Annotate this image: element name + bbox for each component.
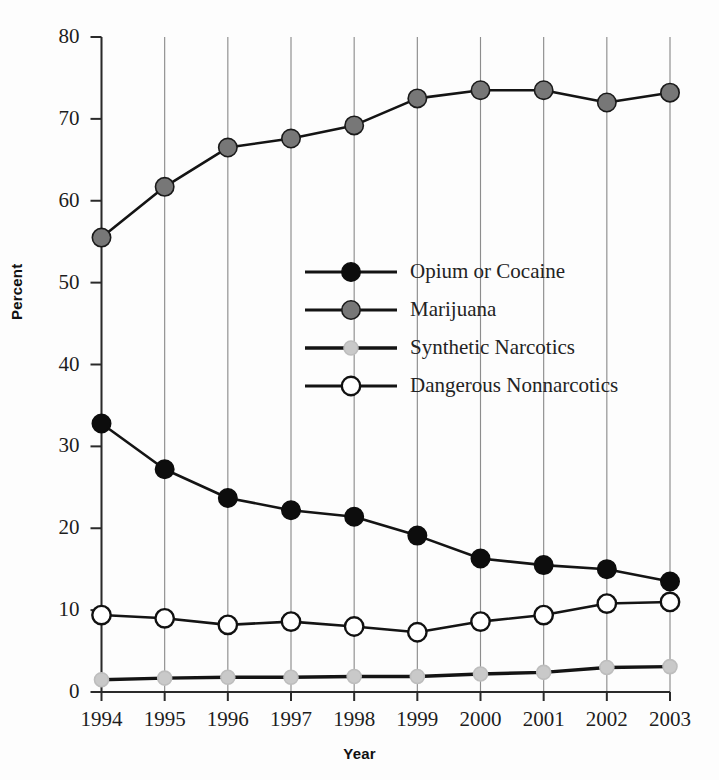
y-tick-label-60: 60: [34, 190, 80, 211]
data-point-1-1996: [219, 138, 237, 156]
data-point-1-2000: [471, 81, 489, 99]
data-point-1-1995: [155, 178, 173, 196]
x-tick-label-1995: 1995: [130, 709, 200, 730]
x-tick-label-1997: 1997: [256, 709, 326, 730]
x-tick-label-1999: 1999: [382, 709, 452, 730]
data-point-3-1999: [408, 623, 426, 641]
data-point-3-2000: [471, 612, 489, 630]
series-line-2: [102, 667, 671, 680]
chart-figure: 01020304050607080 1994199519961997199819…: [0, 0, 719, 780]
data-point-2-2002: [600, 660, 614, 674]
y-tick-label-80: 80: [34, 26, 80, 47]
data-point-2-1995: [158, 671, 172, 685]
data-point-0-2000: [471, 549, 489, 567]
data-point-0-1995: [155, 460, 173, 478]
data-point-1-1999: [408, 89, 426, 107]
x-tick-label-2001: 2001: [509, 709, 579, 730]
data-point-1-2003: [661, 83, 679, 101]
y-tick-label-0: 0: [34, 681, 80, 702]
data-point-1-2001: [534, 81, 552, 99]
y-tick-label-50: 50: [34, 272, 80, 293]
y-tick-label-20: 20: [34, 517, 80, 538]
data-point-1-1994: [92, 228, 110, 246]
y-tick-label-10: 10: [34, 599, 80, 620]
series-3: [92, 593, 679, 642]
series-line-1: [102, 90, 671, 237]
series-1: [92, 81, 679, 247]
data-point-0-1994: [92, 414, 110, 432]
x-tick-label-1994: 1994: [67, 709, 137, 730]
series-line-3: [102, 602, 671, 632]
x-tick-label-1996: 1996: [193, 709, 263, 730]
legend-marker-2: [344, 341, 358, 355]
data-point-3-1998: [345, 617, 363, 635]
data-point-1-2002: [598, 93, 616, 111]
y-axis-title: Percent: [8, 264, 25, 320]
data-point-0-1998: [345, 508, 363, 526]
data-point-3-2002: [598, 594, 616, 612]
data-point-0-1996: [219, 489, 237, 507]
x-tick-label-1998: 1998: [319, 709, 389, 730]
legend-marks-group: [305, 263, 397, 395]
gridlines-group: [102, 37, 671, 692]
x-axis-title: Year: [0, 745, 719, 762]
data-point-2-1998: [347, 669, 361, 683]
x-tick-label-2002: 2002: [572, 709, 642, 730]
legend-marker-3: [342, 377, 360, 395]
y-tick-label-30: 30: [34, 435, 80, 456]
data-point-3-1997: [282, 612, 300, 630]
data-point-2-1994: [95, 673, 109, 687]
series-line-0: [102, 423, 671, 581]
data-point-2-1996: [221, 670, 235, 684]
data-point-3-1996: [219, 616, 237, 634]
data-point-2-1999: [410, 669, 424, 683]
legend-item-1: Marijuana: [410, 299, 496, 320]
data-point-2-2003: [663, 660, 677, 674]
data-point-3-2003: [661, 593, 679, 611]
series-0: [92, 414, 679, 590]
data-point-0-2001: [534, 556, 552, 574]
data-point-1-1997: [282, 129, 300, 147]
y-tick-label-70: 70: [34, 108, 80, 129]
y-tick-label-40: 40: [34, 354, 80, 375]
data-point-3-2001: [534, 606, 552, 624]
legend-item-3: Dangerous Nonnarcotics: [410, 375, 618, 396]
data-point-0-1997: [282, 501, 300, 519]
legend-item-2: Synthetic Narcotics: [410, 337, 575, 358]
x-tick-label-2003: 2003: [635, 709, 705, 730]
legend-marker-1: [342, 301, 360, 319]
data-point-2-1997: [284, 670, 298, 684]
legend-marker-0: [342, 263, 360, 281]
series-2: [95, 660, 678, 687]
data-point-2-2000: [474, 667, 488, 681]
data-point-0-2003: [661, 572, 679, 590]
x-tick-label-2000: 2000: [446, 709, 516, 730]
data-point-3-1994: [92, 606, 110, 624]
axis-group: [91, 37, 671, 701]
data-point-2-2001: [537, 665, 551, 679]
data-point-0-1999: [408, 526, 426, 544]
legend-item-0: Opium or Cocaine: [410, 261, 565, 282]
data-point-3-1995: [155, 609, 173, 627]
data-point-1-1998: [345, 116, 363, 134]
data-point-0-2002: [598, 560, 616, 578]
